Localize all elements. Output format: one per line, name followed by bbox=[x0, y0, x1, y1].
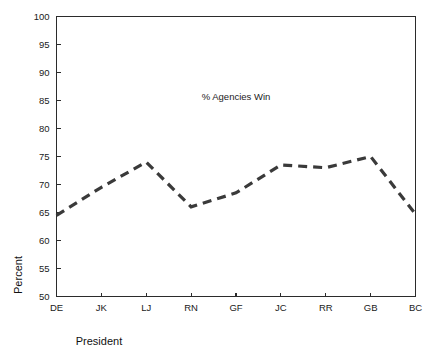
x-axis-tick-labels: DEJKLJRNGFJCRRGBBC bbox=[50, 302, 422, 313]
x-axis-tick-label: GF bbox=[229, 302, 242, 313]
x-axis-title: President bbox=[76, 335, 122, 347]
x-axis-tick-label: JC bbox=[275, 302, 287, 313]
chart-container: 50556065707580859095100 DEJKLJRNGFJCRRGB… bbox=[0, 0, 432, 358]
x-axis-tick-label: RR bbox=[319, 302, 333, 313]
line-chart: 50556065707580859095100 DEJKLJRNGFJCRRGB… bbox=[0, 0, 432, 358]
y-axis-tick-label: 70 bbox=[39, 179, 50, 190]
x-axis-tick-label: BC bbox=[409, 302, 422, 313]
x-axis-tick-label: RN bbox=[184, 302, 198, 313]
x-axis-tick-label: DE bbox=[50, 302, 63, 313]
y-axis-tick-label: 100 bbox=[34, 11, 50, 22]
x-axis-tick-label: LJ bbox=[141, 302, 151, 313]
y-axis-title: Percent bbox=[12, 256, 24, 294]
y-axis-tick-label: 60 bbox=[39, 235, 50, 246]
y-axis-tick-label: 80 bbox=[39, 123, 50, 134]
y-axis-tick-label: 90 bbox=[39, 67, 50, 78]
chart-annotation: % Agencies Win bbox=[202, 91, 271, 102]
y-axis-tick-label: 65 bbox=[39, 207, 50, 218]
y-axis-tick-label: 85 bbox=[39, 95, 50, 106]
y-axis-tick-label: 50 bbox=[39, 291, 50, 302]
y-axis-tick-label: 75 bbox=[39, 151, 50, 162]
y-axis-tick-label: 55 bbox=[39, 263, 50, 274]
x-axis-tick-label: GB bbox=[364, 302, 378, 313]
y-axis-tick-label: 95 bbox=[39, 39, 50, 50]
x-axis-tick-label: JK bbox=[96, 302, 108, 313]
